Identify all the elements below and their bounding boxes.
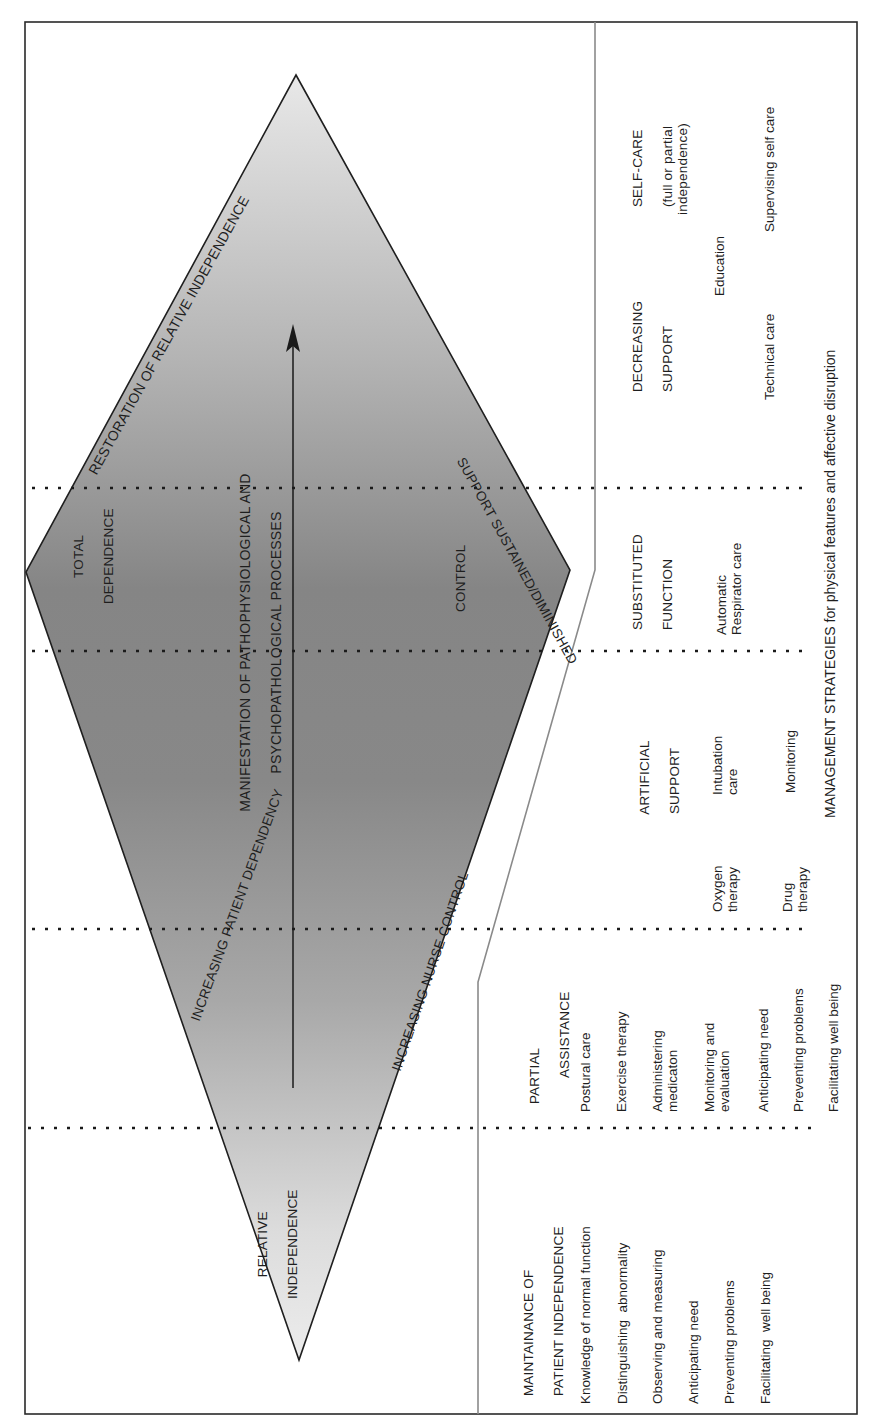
stage1-item-2: Exercise therapy [614, 1011, 629, 1112]
stage-heading-line1: ARTIFICIAL [637, 740, 652, 815]
stage-heading-partial-assistance: PARTIAL ASSISTANCE [512, 992, 572, 1112]
control-label: CONTROL [453, 545, 468, 612]
stage0-item-6: Facilitating well being [758, 1272, 773, 1404]
stage-heading-line1: SELF-CARE [630, 130, 645, 208]
stage4-item-1: Education [712, 236, 727, 296]
center-process-line1: MANIFESTATION OF PATHOPHYSIOLOGICAL AND [237, 473, 253, 811]
total-dependence-line2: DEPENDENCE [101, 508, 116, 604]
stage-heading-line1: DECREASING [630, 301, 645, 392]
stage-heading-line2: ASSISTANCE [557, 992, 572, 1105]
center-process-line2: PSYCHOPATHOLOGICAL PROCESSES [268, 512, 284, 774]
stage-heading-maintainance: MAINTAINANCE OF PATIENT INDEPENDENCE [506, 1226, 566, 1404]
stage0-item-3: Observing and measuring [650, 1249, 665, 1404]
total-dependence-label: TOTAL DEPENDENCE [56, 508, 116, 612]
stage1-item-4: Monitoring and evaluation [702, 1023, 732, 1112]
stage1-item-1: Postural care [578, 1032, 593, 1112]
stage-heading-line1: PARTIAL [527, 1048, 542, 1104]
stage3-item-1: Automatic Respirator care [714, 543, 744, 635]
stage-heading-line1: MAINTAINANCE OF [521, 1270, 536, 1397]
stage2-item-2: Drug therapy [780, 867, 810, 912]
relative-independence-line2: INDEPENDENCE [285, 1189, 300, 1299]
stage4-item-2: Technical care [762, 314, 777, 400]
stage5-item-1: Supervising self care [762, 107, 777, 232]
stage2-item-1: Oxygen therapy [710, 865, 740, 912]
stage-heading-substituted-function: SUBSTITUTED FUNCTION [615, 534, 675, 638]
stage1-item-7: Facilitating well being [826, 984, 841, 1112]
stage-heading-self-care: SELF-CARE (full or partial independence) [615, 123, 691, 215]
stage1-item-5: Anticipating need [756, 1008, 771, 1112]
dependency-diamond [26, 75, 570, 1360]
total-dependence-line1: TOTAL [71, 535, 86, 578]
relative-independence-label: RELATIVE INDEPENDENCE [240, 1189, 300, 1307]
stage0-item-5: Preventing problems [722, 1280, 737, 1404]
stage-heading-line2: (full or partial independence) [660, 123, 690, 215]
center-process-label: MANIFESTATION OF PATHOPHYSIOLOGICAL AND … [222, 473, 285, 820]
stage1-item-3: Administering medicaton [650, 1030, 680, 1112]
management-strategies-title: MANAGEMENT STRATEGIES for physical featu… [823, 350, 839, 818]
stage-heading-line2: SUPPORT [660, 326, 675, 392]
stage-heading-artificial-support: ARTIFICIAL SUPPORT [622, 740, 682, 822]
stage-heading-line2: SUPPORT [667, 748, 682, 814]
relative-independence-line1: RELATIVE [255, 1211, 270, 1277]
stage0-item-1: Knowledge of normal function [578, 1226, 593, 1404]
stage2-item-3: Intubation care [710, 736, 740, 795]
stage2-item-4: Monitoring [783, 730, 798, 793]
stage-heading-decreasing-support: DECREASING SUPPORT [615, 301, 675, 400]
stage-heading-line2: PATIENT INDEPENDENCE [551, 1226, 566, 1396]
stage-heading-line2: FUNCTION [660, 559, 675, 630]
stage0-item-4: Anticipating need [686, 1300, 701, 1404]
diagram-canvas [0, 0, 878, 1423]
stage-heading-line1: SUBSTITUTED [630, 534, 645, 630]
stage1-item-6: Preventing problems [791, 988, 806, 1112]
stage0-item-2: Distinguishing abnormality [615, 1243, 630, 1404]
